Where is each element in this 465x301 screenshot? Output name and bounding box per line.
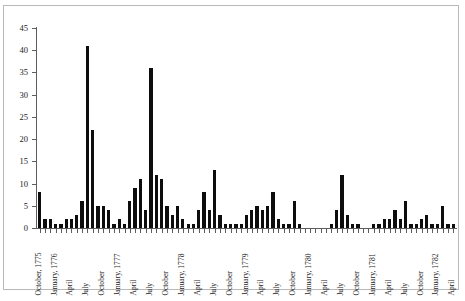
x-tick xyxy=(289,229,290,233)
bar xyxy=(271,192,274,228)
bar xyxy=(86,46,89,228)
x-tick xyxy=(93,229,94,233)
x-tick xyxy=(61,229,62,233)
bar xyxy=(75,215,78,228)
x-tick-label: April xyxy=(321,280,329,296)
x-tick xyxy=(395,229,396,233)
bar xyxy=(446,224,449,228)
x-tick xyxy=(167,229,168,233)
x-tick xyxy=(40,229,41,233)
x-tick xyxy=(384,229,385,233)
bar xyxy=(282,224,285,228)
x-tick xyxy=(109,229,110,233)
x-tick xyxy=(146,229,147,233)
bar xyxy=(240,224,243,228)
x-tick-label: July xyxy=(274,283,282,296)
bar xyxy=(91,130,94,228)
x-tick xyxy=(151,229,152,233)
x-tick xyxy=(199,229,200,233)
x-tick xyxy=(368,229,369,233)
bar xyxy=(123,224,126,228)
x-tick xyxy=(130,229,131,233)
x-tick xyxy=(400,229,401,233)
x-tick xyxy=(427,229,428,233)
x-tick-label: October xyxy=(290,272,298,296)
bar xyxy=(425,215,428,228)
x-tick xyxy=(278,229,279,233)
x-tick xyxy=(56,229,57,233)
bar xyxy=(399,219,402,228)
bar xyxy=(404,201,407,228)
bar xyxy=(409,224,412,228)
x-tick xyxy=(119,229,120,233)
x-tick xyxy=(379,229,380,233)
bar xyxy=(420,219,423,228)
bar xyxy=(165,206,168,228)
bar xyxy=(133,188,136,228)
x-tick xyxy=(231,229,232,233)
x-tick xyxy=(98,229,99,233)
bar xyxy=(452,224,455,228)
bar xyxy=(218,215,221,228)
x-tick xyxy=(453,229,454,233)
chart-frame: 051015202530354045 October, 1775January,… xyxy=(3,5,459,290)
x-tick xyxy=(66,229,67,233)
x-tick xyxy=(321,229,322,233)
y-tick-label: 30 xyxy=(20,90,29,99)
x-tick xyxy=(374,229,375,233)
x-tick xyxy=(422,229,423,233)
x-tick-label: April xyxy=(385,280,393,296)
x-tick xyxy=(162,229,163,233)
bar xyxy=(383,219,386,228)
x-tick xyxy=(257,229,258,233)
x-tick-label: January, 1776 xyxy=(51,254,59,296)
bar xyxy=(102,206,105,228)
bar xyxy=(277,219,280,228)
bar xyxy=(330,224,333,228)
x-tick xyxy=(172,229,173,233)
bar xyxy=(224,224,227,228)
x-tick xyxy=(183,229,184,233)
y-tick-label: 45 xyxy=(20,24,29,33)
bar xyxy=(187,224,190,228)
x-tick-label: January, 1781 xyxy=(369,254,377,296)
bar xyxy=(65,219,68,228)
x-tick xyxy=(125,229,126,233)
bar xyxy=(96,206,99,228)
x-tick xyxy=(331,229,332,233)
y-tick: 35 xyxy=(32,72,37,73)
x-tick xyxy=(432,229,433,233)
x-tick xyxy=(448,229,449,233)
x-tick xyxy=(416,229,417,233)
x-tick xyxy=(156,229,157,233)
bar xyxy=(181,219,184,228)
x-tick-label: January, 1777 xyxy=(115,254,123,296)
bar xyxy=(255,206,258,228)
bar xyxy=(176,206,179,228)
bar xyxy=(266,206,269,228)
bar xyxy=(208,210,211,228)
y-tick: 45 xyxy=(32,28,37,29)
x-tick-label: October, 1775 xyxy=(35,253,43,296)
x-tick-label: October xyxy=(353,272,361,296)
x-tick xyxy=(247,229,248,233)
bar xyxy=(372,224,375,228)
bar xyxy=(43,219,46,228)
bar xyxy=(388,219,391,228)
x-tick-label: October xyxy=(226,272,234,296)
x-tick xyxy=(411,229,412,233)
y-tick: 20 xyxy=(32,139,37,140)
bar xyxy=(346,215,349,228)
bar xyxy=(38,192,41,228)
x-tick xyxy=(50,229,51,233)
x-tick-label: April xyxy=(258,280,266,296)
x-tick xyxy=(358,229,359,233)
bar xyxy=(112,224,115,228)
x-tick-label: July xyxy=(83,283,91,296)
x-tick xyxy=(315,229,316,233)
y-tick-label: 20 xyxy=(20,135,29,144)
x-tick-label: October xyxy=(417,272,425,296)
x-tick-label: October xyxy=(162,272,170,296)
x-tick xyxy=(77,229,78,233)
x-tick xyxy=(193,229,194,233)
